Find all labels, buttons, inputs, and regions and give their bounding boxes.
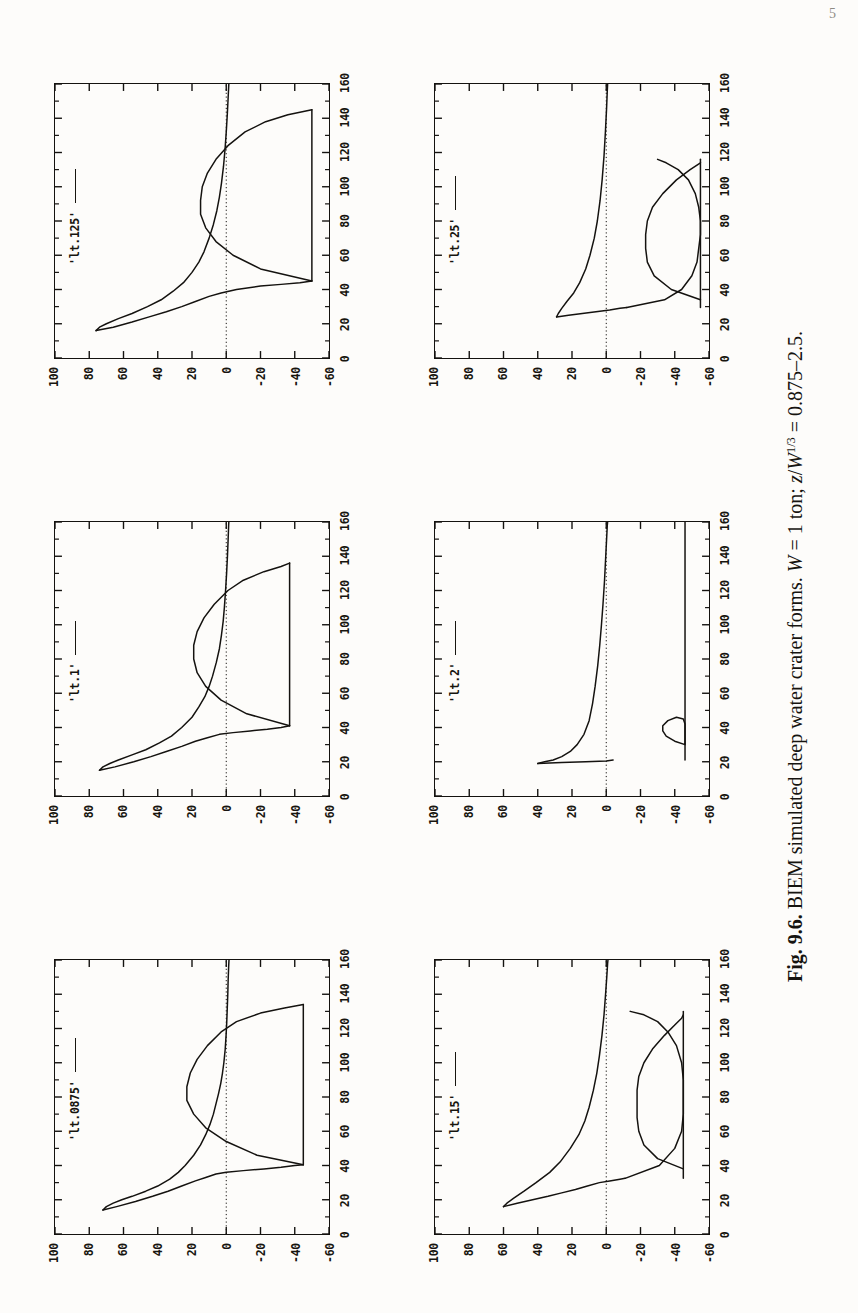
x-tick-label: 80: [718, 1090, 732, 1103]
y-tick-label: -40: [669, 367, 683, 387]
legend-line-swatch: [455, 621, 456, 655]
y-tick-label: -60: [703, 367, 717, 387]
x-tick-label: 100: [718, 1053, 732, 1073]
y-tick-label: 40: [531, 367, 545, 380]
x-tick-label: 120: [338, 142, 352, 162]
caption-figure-number: Fig. 9.6.: [784, 914, 806, 982]
caption-condition-w: W = 1 ton;: [784, 488, 806, 572]
y-tick-label: -20: [254, 1243, 268, 1263]
x-tick-label: 40: [338, 721, 352, 734]
x-tick-label: 120: [338, 1018, 352, 1038]
y-tick-label: 60: [116, 1243, 130, 1256]
x-tick-label: 20: [718, 1194, 732, 1207]
y-tick-label: 0: [220, 805, 234, 812]
x-tick-label: 80: [718, 652, 732, 665]
y-tick-label: -20: [634, 805, 648, 825]
y-tick-label: 80: [462, 1243, 476, 1256]
x-tick-label: 20: [338, 756, 352, 769]
x-tick-label: 160: [718, 949, 732, 969]
rotated-figure-wrapper: 020406080100120140160100806040200-20-40-…: [0, 0, 858, 1313]
plot-area-lt1: [54, 521, 330, 797]
y-tick-label: 20: [565, 1243, 579, 1256]
y-tick-label: -40: [289, 367, 303, 387]
x-tick-label: 20: [338, 318, 352, 331]
x-tick-label: 100: [338, 1053, 352, 1073]
series-crater-profile-lower: [557, 307, 627, 316]
legend-label: 'lt.1': [68, 663, 82, 703]
y-tick-label: 80: [462, 367, 476, 380]
legend-lt1: 'lt.1': [68, 621, 82, 703]
legend-lt25: 'lt.25': [448, 176, 462, 265]
y-tick-label: 0: [600, 805, 614, 812]
y-tick-label: 100: [427, 805, 441, 825]
x-tick-label: 80: [718, 214, 732, 227]
y-tick-label: 100: [47, 805, 61, 825]
series-bubble-lobe: [663, 717, 685, 744]
y-tick-label: 100: [47, 367, 61, 387]
y-tick-label: 40: [531, 805, 545, 818]
x-tick-label: 40: [338, 1159, 352, 1172]
series-crater-bowl: [194, 563, 290, 726]
legend-line-swatch: [75, 1038, 76, 1072]
plot-canvas-lt125: [55, 84, 329, 358]
x-tick-label: 160: [338, 73, 352, 93]
x-tick-label: 40: [718, 283, 732, 296]
x-tick-label: 140: [338, 546, 352, 566]
x-tick-label: 160: [338, 511, 352, 531]
x-tick-label: 120: [718, 142, 732, 162]
x-tick-label: 0: [718, 356, 732, 363]
series-crater-bowl: [201, 110, 312, 281]
legend-lt0875: 'lt.0875': [68, 1038, 82, 1141]
y-tick-label: 0: [220, 367, 234, 374]
series-crater-bowl: [625, 1011, 683, 1178]
plot-panel-lt15: 020406080100120140160100806040200-20-40-…: [420, 933, 750, 1291]
y-tick-label: 0: [600, 367, 614, 374]
x-tick-label: 140: [718, 984, 732, 1004]
y-tick-label: -40: [669, 1243, 683, 1263]
x-tick-label: 100: [338, 177, 352, 197]
plot-area-lt25: [434, 83, 710, 359]
plot-panel-lt25: 020406080100120140160100806040200-20-40-…: [420, 57, 750, 415]
x-tick-label: 140: [338, 984, 352, 1004]
y-tick-label: 40: [151, 805, 165, 818]
y-tick-label: -40: [669, 805, 683, 825]
y-tick-label: 80: [82, 805, 96, 818]
x-tick-label: 100: [718, 177, 732, 197]
plot-panel-lt2: 020406080100120140160100806040200-20-40-…: [420, 495, 750, 853]
legend-label: 'lt.125': [68, 211, 82, 265]
y-tick-label: -40: [289, 1243, 303, 1263]
plot-panel-lt125: 020406080100120140160100806040200-20-40-…: [40, 57, 370, 415]
plot-canvas-lt25: [435, 84, 709, 358]
legend-line-swatch: [455, 1052, 456, 1086]
x-tick-label: 80: [338, 652, 352, 665]
x-tick-label: 140: [338, 108, 352, 128]
series-crater-profile-upper: [538, 522, 608, 763]
plot-panel-lt1: 020406080100120140160100806040200-20-40-…: [40, 495, 370, 853]
figure-caption: Fig. 9.6. BIEM simulated deep water crat…: [784, 0, 807, 1313]
y-tick-label: 60: [116, 367, 130, 380]
x-tick-label: 160: [718, 73, 732, 93]
y-tick-label: 0: [600, 1243, 614, 1250]
y-tick-label: -20: [634, 1243, 648, 1263]
y-tick-label: 80: [82, 367, 96, 380]
legend-line-swatch: [75, 621, 76, 655]
y-tick-label: 100: [47, 1243, 61, 1263]
y-tick-label: -20: [254, 805, 268, 825]
legend-label: 'lt.25': [448, 218, 462, 265]
x-tick-label: 120: [338, 580, 352, 600]
y-tick-label: 20: [185, 1243, 199, 1256]
plot-canvas-lt1: [55, 522, 329, 796]
plot-canvas-lt15: [435, 960, 709, 1234]
legend-line-swatch: [455, 176, 456, 210]
y-tick-label: 60: [496, 367, 510, 380]
x-tick-label: 20: [718, 318, 732, 331]
legend-label: 'lt.2': [448, 663, 462, 703]
x-tick-label: 20: [718, 756, 732, 769]
y-tick-label: 100: [427, 367, 441, 387]
legend-lt125: 'lt.125': [68, 169, 82, 265]
y-tick-label: -60: [323, 1243, 337, 1263]
y-tick-label: 0: [220, 1243, 234, 1250]
x-tick-label: 60: [718, 687, 732, 700]
plot-canvas-lt0875: [55, 960, 329, 1234]
series-crater-profile-upper: [96, 84, 229, 331]
